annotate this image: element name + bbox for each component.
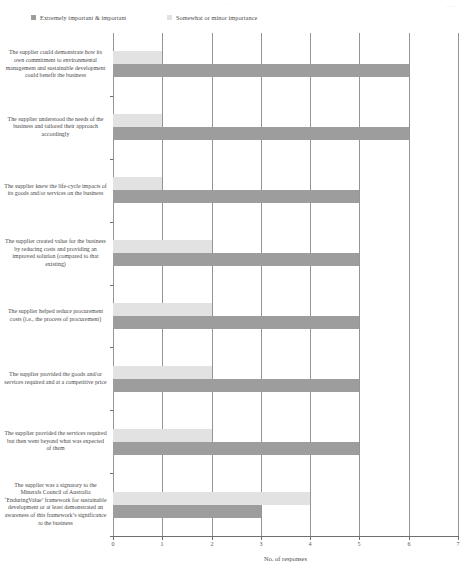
- x-tick: [261, 536, 262, 540]
- category-label: The supplier provided the services requi…: [4, 430, 110, 453]
- legend-item-extremely-important: Extremely important & important: [31, 14, 126, 21]
- x-axis-line: [113, 536, 458, 537]
- x-tick: [212, 536, 213, 540]
- x-tick-label: 7: [457, 541, 460, 547]
- legend-label: Somewhat or minor importance: [176, 14, 257, 21]
- category-row: [113, 33, 458, 96]
- category-row: [113, 347, 458, 410]
- bar-somewhat-minor: [113, 51, 162, 64]
- legend-square-icon: [31, 15, 36, 20]
- category-label: The supplier was a signatory to the Mine…: [4, 482, 110, 528]
- x-tick: [409, 536, 410, 540]
- x-tick-label: 1: [161, 541, 164, 547]
- category-label: The supplier understood the needs of the…: [4, 116, 110, 139]
- bar-extremely-important: [113, 253, 359, 266]
- category-label: The supplier created value for the busin…: [4, 238, 110, 268]
- legend-label: Extremely important & important: [40, 14, 126, 21]
- page-header-artifact: · · · ——: [0, 1, 463, 11]
- bar-extremely-important: [113, 379, 359, 392]
- x-tick: [359, 536, 360, 540]
- bar-somewhat-minor: [113, 303, 212, 316]
- category-row: [113, 159, 458, 222]
- x-tick: [113, 536, 114, 540]
- category-row: [113, 96, 458, 159]
- x-tick: [310, 536, 311, 540]
- bar-extremely-important: [113, 127, 409, 140]
- plot-area: 01234567 No. of responses: [113, 33, 458, 536]
- legend-square-icon: [167, 15, 172, 20]
- category-label: The supplier provided the goods and/or s…: [4, 371, 110, 386]
- category-row: [113, 285, 458, 348]
- x-axis-title: No. of responses: [113, 555, 458, 562]
- x-tick-label: 2: [211, 541, 214, 547]
- chart-legend: Extremely important & important Somewhat…: [0, 14, 463, 28]
- x-tick: [458, 536, 459, 540]
- bar-extremely-important: [113, 190, 359, 203]
- category-label: The supplier helped reduce procurement c…: [4, 308, 110, 323]
- bar-somewhat-minor: [113, 366, 212, 379]
- category-row: [113, 222, 458, 285]
- category-label: The supplier knew the life-cycle impacts…: [4, 183, 110, 198]
- x-tick-label: 3: [260, 541, 263, 547]
- bar-somewhat-minor: [113, 177, 162, 190]
- horizontal-bar-chart: · · · —— Extremely important & important…: [0, 0, 463, 573]
- bar-somewhat-minor: [113, 492, 310, 505]
- header-right-mark: ——: [446, 3, 455, 8]
- bar-extremely-important: [113, 64, 409, 77]
- category-row: [113, 410, 458, 473]
- x-tick: [162, 536, 163, 540]
- category-label: The supplier could demonstrate how its o…: [4, 49, 110, 79]
- bar-extremely-important: [113, 505, 261, 518]
- gridline: [458, 33, 459, 536]
- header-center-mark: · · ·: [225, 1, 238, 6]
- x-tick-label: 4: [309, 541, 312, 547]
- x-tick-label: 0: [112, 541, 115, 547]
- bar-extremely-important: [113, 442, 359, 455]
- bar-extremely-important: [113, 316, 359, 329]
- x-tick-label: 5: [358, 541, 361, 547]
- bar-somewhat-minor: [113, 114, 162, 127]
- category-row: [113, 473, 458, 536]
- legend-item-somewhat-minor: Somewhat or minor importance: [167, 14, 257, 21]
- bar-somewhat-minor: [113, 429, 212, 442]
- bar-somewhat-minor: [113, 240, 212, 253]
- category-labels-column: The supplier could demonstrate how its o…: [0, 33, 110, 536]
- x-tick-label: 6: [408, 541, 411, 547]
